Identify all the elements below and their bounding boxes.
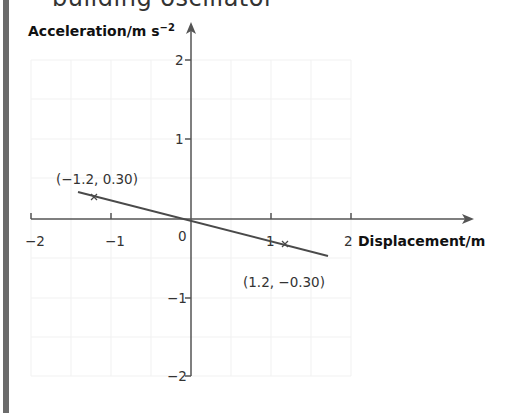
- x-tick-label: −2: [25, 233, 45, 249]
- x-axis: [31, 213, 468, 219]
- acceleration-displacement-chart: Acceleration/m s−2 Displacement/m −2 −1 …: [0, 0, 512, 413]
- origin-label: 0: [178, 228, 187, 244]
- x-axis-label: Displacement/m: [358, 233, 485, 249]
- y-tick-label: 1: [175, 131, 184, 147]
- point-label: (1.2, −0.30): [243, 274, 325, 290]
- y-tick-label: −2: [167, 368, 187, 384]
- point-label: (−1.2, 0.30): [56, 171, 138, 187]
- y-tick-label: 2: [175, 52, 184, 68]
- y-tick-label: −1: [167, 290, 187, 306]
- y-axis-label: Acceleration/m s−2: [28, 22, 175, 39]
- x-tick-label: −1: [105, 233, 125, 249]
- x-tick-label: 2: [344, 233, 353, 249]
- y-axis: [185, 28, 191, 376]
